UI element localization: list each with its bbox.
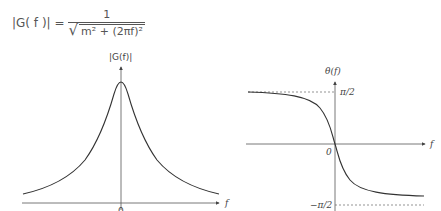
- neg-pi-half-label: −π/2: [310, 200, 332, 210]
- plots-canvas: |G(f)| f 0 θ(f) f 0 π/2 −π/2: [0, 0, 441, 211]
- left-x-label: f: [224, 198, 230, 208]
- right-x-label: f: [429, 139, 435, 149]
- right-y-label: θ(f): [325, 66, 341, 76]
- right-origin-label: 0: [326, 147, 332, 157]
- phase-plot: θ(f) f 0 π/2 −π/2: [246, 66, 435, 211]
- left-origin-label: 0: [118, 206, 124, 211]
- magnitude-plot: |G(f)| f 0: [22, 52, 230, 211]
- pi-half-label: π/2: [339, 87, 355, 97]
- left-y-label: |G(f)|: [109, 52, 132, 62]
